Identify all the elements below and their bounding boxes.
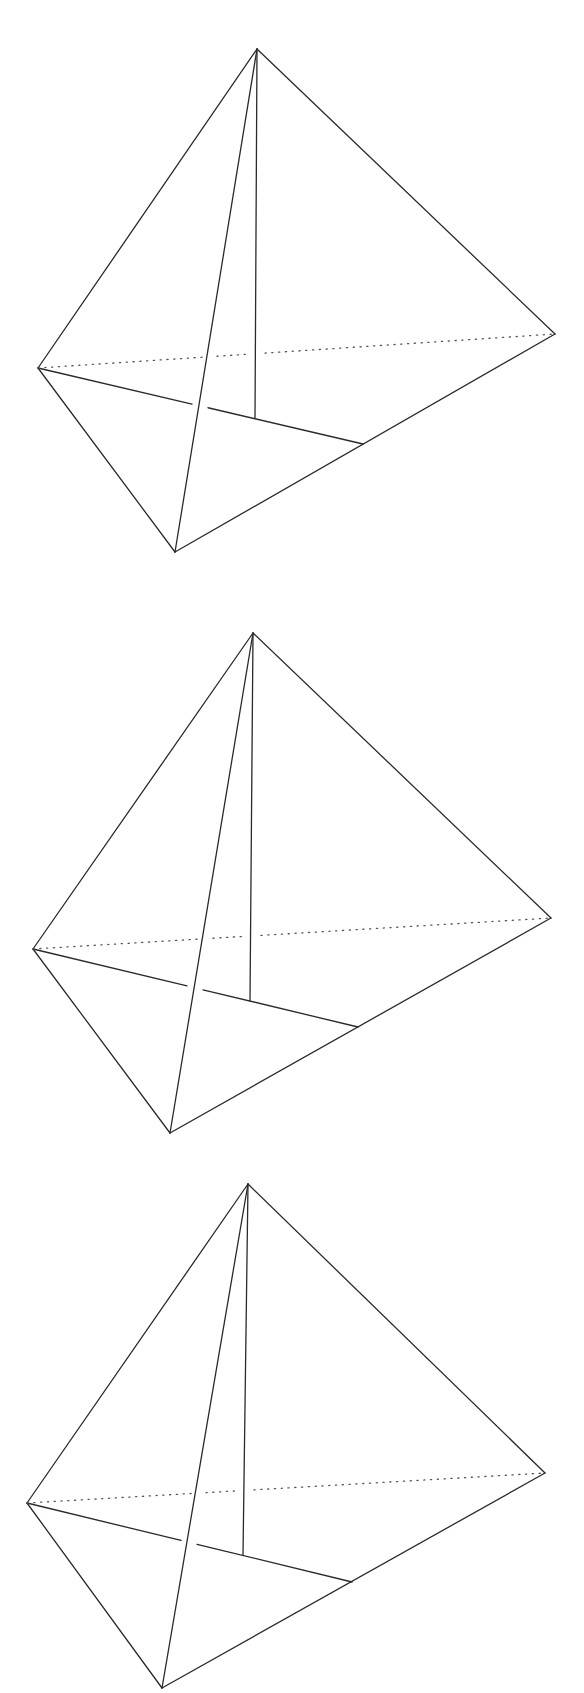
hidden-edge-left-right (213, 936, 243, 938)
tetrahedron-1 (38, 49, 555, 552)
median-line-segment (203, 990, 358, 1027)
edge-apex-left (38, 49, 257, 368)
edge-apex-right (248, 1184, 545, 1473)
tetrahedron-2 (33, 633, 551, 1133)
edge-apex-left (27, 1184, 248, 1503)
edge-apex-right (257, 49, 555, 334)
median-line-segment (197, 1544, 352, 1582)
altitude-line (255, 49, 257, 418)
edge-apex-left (33, 633, 253, 949)
edge-bottom-right (170, 918, 551, 1133)
hidden-edge-left-right (261, 918, 551, 935)
median-line-segment (208, 408, 363, 444)
hidden-edge-left-right (38, 357, 203, 368)
hidden-edge-left-right (217, 354, 250, 356)
hidden-edge-left-right (206, 1491, 239, 1493)
edge-apex-bottom (170, 633, 253, 1133)
edge-apex-bottom (175, 49, 257, 552)
hidden-edge-left-right (33, 939, 198, 949)
hidden-edge-left-right (27, 1493, 192, 1503)
edge-bottom-right (175, 334, 555, 552)
edge-apex-right (253, 633, 551, 918)
hidden-edge-left-right (265, 334, 555, 353)
edge-bottom-right (162, 1473, 545, 1688)
hidden-edge-left-right (254, 1473, 545, 1490)
edge-apex-bottom (162, 1184, 248, 1688)
altitude-line (243, 1184, 248, 1555)
tetrahedra-diagram (0, 0, 584, 1693)
altitude-line (250, 633, 253, 1001)
tetrahedron-3 (27, 1184, 545, 1688)
